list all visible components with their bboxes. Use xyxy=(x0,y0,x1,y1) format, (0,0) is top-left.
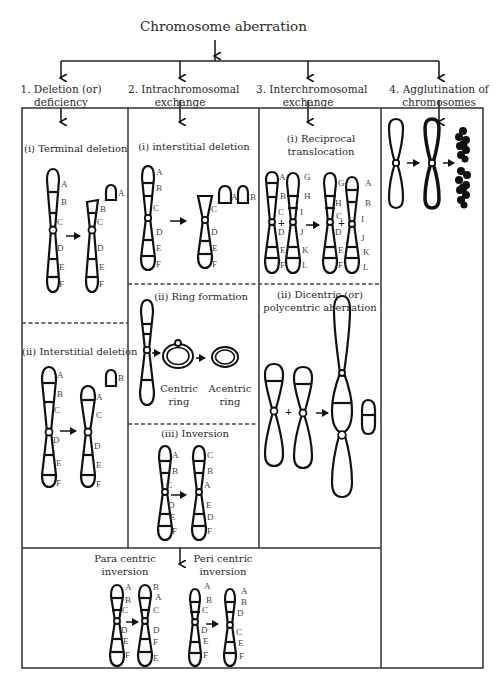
pericentric-title-line: Peri centric xyxy=(188,553,258,566)
band-label: C xyxy=(202,606,208,615)
band-label: E xyxy=(212,244,218,253)
agglutinated-clump xyxy=(455,127,471,209)
band-label: C xyxy=(54,406,60,415)
paracentric-title-line: Para centric xyxy=(90,553,160,566)
band-label: D xyxy=(278,228,285,237)
intra-interstitial-title: (i) interstitial deletion xyxy=(130,141,258,154)
band-label: A xyxy=(204,582,211,591)
band-label: J xyxy=(361,234,365,243)
paracentric-title: Para centric inversion xyxy=(90,553,160,578)
band-label: B xyxy=(241,598,247,607)
band-label: E xyxy=(99,263,105,272)
category-agglutination: 4. Agglutination of chromosomes xyxy=(388,83,490,109)
band-label: B xyxy=(172,467,178,476)
reciprocal-title-line: (i) Reciprocal xyxy=(265,133,377,146)
reciprocal-translocation-title: (i) Reciprocal translocation xyxy=(265,133,377,158)
band-label: F xyxy=(96,480,101,489)
terminal-deletion-after xyxy=(86,185,116,292)
band-label: A xyxy=(279,173,286,182)
band-label: L xyxy=(363,263,369,272)
band-label: A xyxy=(96,393,103,402)
paracentric-title-line: inversion xyxy=(90,566,160,579)
band-label: A xyxy=(172,451,179,460)
band-label: C xyxy=(97,218,103,227)
band-label: D xyxy=(121,626,128,635)
band-label: F xyxy=(203,651,208,660)
centric-ring xyxy=(163,340,193,368)
category-label: 3. Interchromosomal xyxy=(256,83,360,96)
terminal-deletion-before xyxy=(47,169,59,292)
band-label: F xyxy=(280,261,285,270)
band-label: H xyxy=(335,199,342,208)
fragment-label: B xyxy=(250,193,256,202)
band-label: D xyxy=(156,228,163,237)
band-label: D xyxy=(237,609,244,618)
band-label: E xyxy=(123,637,129,646)
band-label: F xyxy=(212,260,217,269)
category-label: chromosomes xyxy=(388,96,490,109)
interstitial-deletion-title: (ii) Interstitial deletion xyxy=(22,346,128,359)
band-label: A xyxy=(204,481,211,490)
band-label: D xyxy=(97,244,104,253)
intra-interstitial-after xyxy=(198,186,248,268)
inversion-before xyxy=(158,446,172,540)
band-label: E xyxy=(170,513,176,522)
band-label: C xyxy=(278,208,284,217)
band-label: E xyxy=(238,639,244,648)
band-label: B xyxy=(100,205,106,214)
category-deletion: 1. Deletion (or) deficiency xyxy=(15,83,107,109)
category-label: 4. Agglutination of xyxy=(388,83,490,96)
band-label: A xyxy=(57,371,64,380)
band-label: E xyxy=(156,244,162,253)
band-label: C xyxy=(57,218,63,227)
band-label: F xyxy=(239,652,244,661)
pericentric-title-line: inversion xyxy=(188,566,258,579)
terminal-deletion-title: (i) Terminal deletion xyxy=(24,143,126,156)
band-label: F xyxy=(207,527,212,536)
pericentric-title: Peri centric inversion xyxy=(188,553,258,578)
band-label: C xyxy=(122,606,128,615)
band-label: A xyxy=(61,180,68,189)
band-label: D xyxy=(168,501,175,510)
centric-ring-label: Centric ring xyxy=(155,383,203,408)
category-intrachromosomal: 2. Intrachromosomal exchange xyxy=(128,83,232,109)
band-label: E xyxy=(206,501,212,510)
band-label: G xyxy=(304,173,311,182)
band-label: B xyxy=(280,192,286,201)
fragment-label: B xyxy=(118,374,124,383)
acentric-ring xyxy=(212,347,238,367)
band-label: B xyxy=(156,184,162,193)
acentric-ring-label: Acentric ring xyxy=(205,383,255,408)
dicentric-title-line: (ii) Dicentric (or) xyxy=(260,289,380,302)
fragment-label: A xyxy=(118,189,125,198)
dicentric-chromosomes xyxy=(265,296,375,497)
diagram-title: Chromosome aberration xyxy=(140,20,290,33)
band-label: F xyxy=(156,260,161,269)
inversion-title: (iii) Inversion xyxy=(145,428,245,441)
band-label: K xyxy=(302,246,309,255)
band-label: B xyxy=(57,390,63,399)
band-label: C xyxy=(236,628,242,637)
band-label: B xyxy=(207,467,213,476)
band-label: D xyxy=(153,626,160,635)
centric-ring-text: ring xyxy=(155,396,203,409)
acentric-ring-text: ring xyxy=(205,396,255,409)
band-label: C xyxy=(336,212,342,221)
band-label: F xyxy=(56,479,61,488)
dicentric-title: (ii) Dicentric (or) polycentric aberrati… xyxy=(260,289,380,314)
band-label: B xyxy=(125,596,131,605)
band-label: I xyxy=(300,208,303,217)
band-label: E xyxy=(153,654,159,663)
band-label: F xyxy=(153,638,158,647)
band-label: E xyxy=(96,461,102,470)
band-label: A xyxy=(125,583,132,592)
band-label: D xyxy=(201,626,208,635)
band-label: D xyxy=(335,228,342,237)
band-label: C xyxy=(153,606,159,615)
dicentric-title-line: polycentric aberration xyxy=(260,302,380,315)
fragment-label: A xyxy=(231,193,238,202)
band-label: E xyxy=(59,263,65,272)
category-label: exchange xyxy=(128,96,232,109)
ring-formation-chromosome xyxy=(140,300,154,405)
band-label: D xyxy=(57,244,64,253)
